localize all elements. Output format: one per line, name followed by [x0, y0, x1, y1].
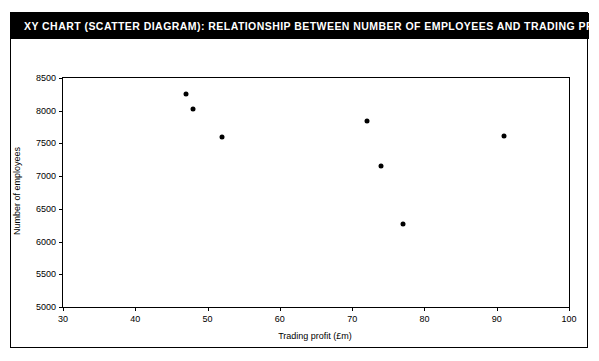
x-axis-label: Trading profit (£m) [278, 331, 352, 341]
scatter-point [379, 164, 384, 169]
y-tick-mark [59, 274, 63, 275]
y-tick-label: 5000 [36, 302, 56, 312]
x-tick-mark [352, 307, 353, 311]
y-tick-label: 6500 [36, 204, 56, 214]
y-tick-mark [59, 111, 63, 112]
scatter-point [183, 92, 188, 97]
x-tick-label: 40 [130, 314, 140, 324]
scatter-point [501, 133, 506, 138]
x-tick-label: 30 [58, 314, 68, 324]
x-tick-mark [424, 307, 425, 311]
chart-figure: XY CHART (SCATTER DIAGRAM): RELATIONSHIP… [10, 12, 588, 348]
x-tick-label: 80 [419, 314, 429, 324]
plot-wrapper: Number of employees Trading profit (£m) … [11, 39, 589, 347]
y-tick-mark [59, 209, 63, 210]
y-tick-label: 8000 [36, 106, 56, 116]
y-tick-mark [59, 143, 63, 144]
y-tick-label: 8500 [36, 73, 56, 83]
plot-area: 50005500600065007000750080008500 3040506… [62, 77, 570, 308]
y-tick-mark [59, 78, 63, 79]
x-tick-label: 70 [347, 314, 357, 324]
x-tick-label: 50 [203, 314, 213, 324]
x-tick-label: 100 [561, 314, 576, 324]
scatter-point [191, 106, 196, 111]
x-tick-mark [135, 307, 136, 311]
scatter-point [220, 134, 225, 139]
y-tick-label: 7000 [36, 171, 56, 181]
x-tick-label: 90 [492, 314, 502, 324]
y-tick-mark [59, 176, 63, 177]
x-tick-mark [208, 307, 209, 311]
x-tick-mark [63, 307, 64, 311]
y-tick-label: 6000 [36, 237, 56, 247]
scatter-point [400, 221, 405, 226]
y-axis-label: Number of employees [12, 147, 22, 235]
chart-title-bar: XY CHART (SCATTER DIAGRAM): RELATIONSHIP… [11, 13, 589, 39]
x-tick-mark [497, 307, 498, 311]
x-tick-mark [569, 307, 570, 311]
x-tick-label: 60 [275, 314, 285, 324]
y-tick-mark [59, 242, 63, 243]
scatter-point [364, 118, 369, 123]
x-tick-mark [280, 307, 281, 311]
y-tick-label: 5500 [36, 269, 56, 279]
y-tick-label: 7500 [36, 138, 56, 148]
page-title: XY CHART (SCATTER DIAGRAM): RELATIONSHIP… [24, 20, 599, 32]
